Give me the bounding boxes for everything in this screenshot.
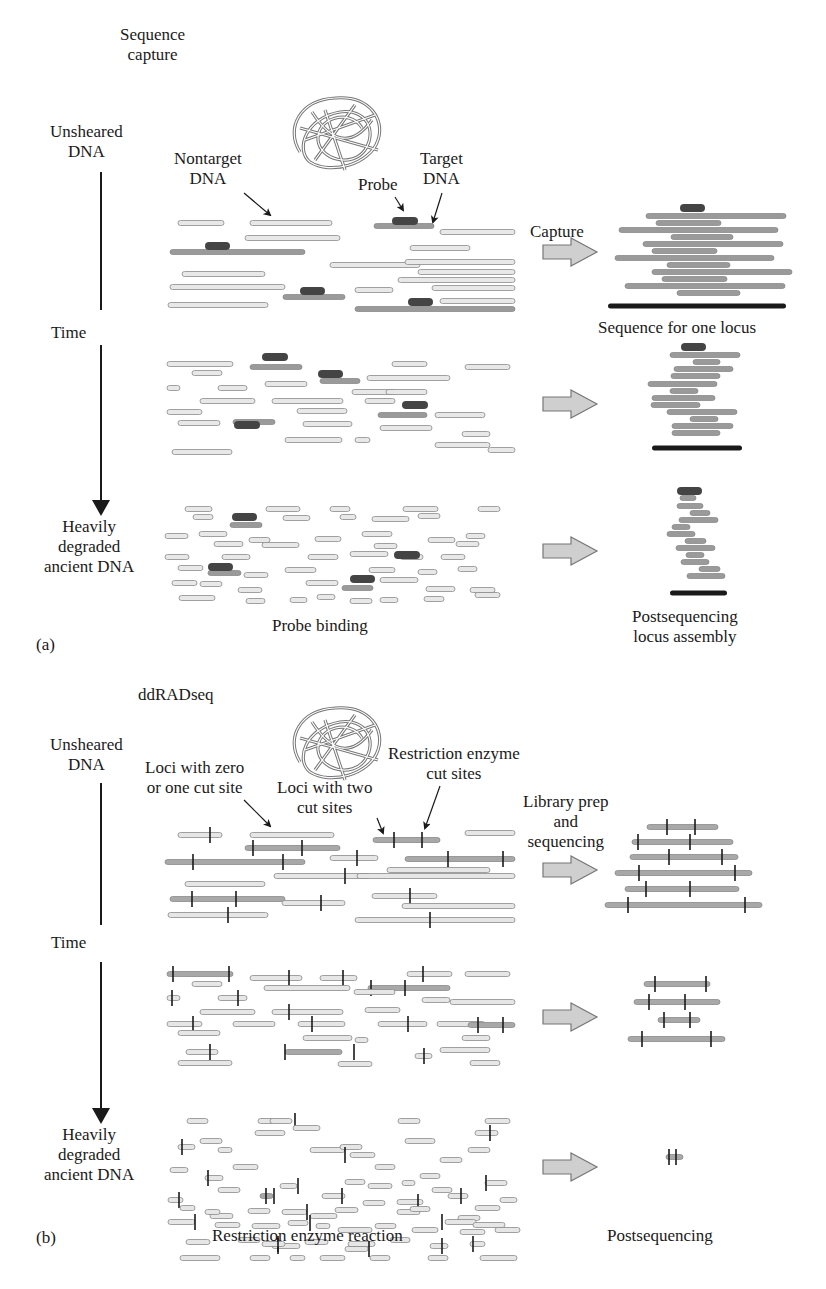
fragment [485, 1181, 507, 1186]
fragment [365, 1008, 400, 1013]
nontarget-fragment [246, 599, 265, 604]
fragment [298, 1022, 345, 1027]
degraded-dna-label-b: Heavilydegradedancient DNA [44, 1125, 134, 1185]
fragment [270, 1119, 292, 1124]
captured-read [672, 424, 733, 429]
nontarget-fragment [283, 516, 310, 521]
nontarget-fragment [165, 555, 189, 560]
captured-read [667, 532, 695, 537]
fragment [170, 1168, 188, 1173]
fragment [448, 1194, 468, 1199]
fragment [178, 1031, 220, 1036]
sequenced-fragment [632, 840, 733, 845]
target-fragment [208, 571, 241, 576]
captured-read [651, 403, 700, 408]
fragment [372, 894, 437, 899]
fragment [428, 1256, 448, 1261]
nontarget-fragment [303, 422, 352, 427]
probe-icon [392, 217, 418, 225]
fragment [250, 833, 334, 838]
time-arrowhead-icon [92, 500, 110, 516]
nontarget-fragment [418, 514, 440, 519]
captured-read [615, 256, 774, 261]
nontarget-fragment [182, 272, 265, 277]
captured-read [643, 242, 783, 247]
fragment [200, 1010, 255, 1015]
nontarget-fragment [440, 299, 515, 304]
captured-read [677, 504, 703, 509]
captured-read [671, 235, 733, 240]
nontarget-fragment [167, 410, 202, 415]
two-cut-fragment [167, 972, 233, 977]
probe-icon [318, 370, 343, 378]
fragment [402, 1181, 415, 1186]
nontarget-fragment [432, 286, 515, 291]
fragment [460, 1230, 485, 1235]
nontarget-dna-callout: NontargetDNA [174, 149, 242, 189]
fragment [250, 1256, 270, 1261]
probe-icon [402, 401, 428, 409]
fragment [465, 831, 515, 836]
fragment [178, 833, 222, 838]
fragment [345, 1247, 368, 1252]
fragment [290, 1256, 305, 1261]
fragment [378, 1022, 427, 1027]
fragment [350, 1153, 375, 1158]
fragment [495, 1228, 520, 1233]
dna-tangle-icon-b [294, 708, 379, 780]
nontarget-fragment [193, 515, 213, 520]
fragment [363, 1201, 385, 1206]
nontarget-fragment [440, 230, 515, 235]
time-label-a: Time [49, 323, 88, 343]
target-fragment [342, 586, 373, 591]
nontarget-fragment [185, 507, 212, 512]
nontarget-fragment [178, 566, 203, 571]
nontarget-fragment [199, 532, 227, 537]
postsequencing-caption: Postsequencing [607, 1226, 713, 1246]
probe-icon [262, 353, 288, 361]
fragment [320, 1256, 345, 1261]
nontarget-fragment [350, 599, 372, 604]
time-axis-b [92, 783, 110, 1124]
restriction-reaction-caption: Restriction enzyme reaction [212, 1226, 403, 1246]
process-arrow-icon [543, 1003, 597, 1031]
fragment [412, 1228, 438, 1233]
target-dna-callout: TargetDNA [420, 149, 463, 189]
fragment [405, 1139, 435, 1144]
panel-b-label: (b) [36, 1228, 56, 1248]
nontarget-fragment [418, 570, 437, 575]
target-fragment [355, 307, 515, 312]
fragment [282, 901, 345, 906]
fragment [310, 1214, 337, 1219]
probe-icon [205, 242, 230, 250]
fragment [233, 1022, 275, 1027]
probe-icon [677, 487, 702, 495]
nontarget-fragment [170, 285, 285, 290]
fragment [335, 1208, 358, 1213]
panel-a-label: (a) [36, 635, 55, 655]
probe-icon [300, 287, 325, 295]
fragment [440, 1048, 490, 1053]
nontarget-fragment [470, 588, 495, 593]
nontarget-fragment [355, 288, 393, 293]
two-cut-fragment [468, 1023, 515, 1028]
fragment [187, 1119, 208, 1124]
captured-read [690, 417, 718, 422]
fragment [465, 972, 510, 977]
probe-icon [232, 513, 257, 521]
fragment [178, 1145, 195, 1150]
captured-read [680, 496, 696, 501]
nontarget-fragment [462, 432, 490, 437]
captured-read [687, 574, 725, 579]
nontarget-fragment [365, 399, 395, 404]
fragment [272, 1010, 343, 1015]
fragment [354, 990, 395, 995]
nontarget-fragment [315, 537, 341, 542]
nontarget-fragment [266, 507, 300, 512]
fragment [288, 1221, 308, 1226]
target-fragment [283, 295, 345, 300]
fragment [355, 918, 515, 923]
dna-tangle-icon-a [294, 98, 379, 170]
captured-read [693, 360, 720, 365]
fragment [462, 1036, 490, 1041]
